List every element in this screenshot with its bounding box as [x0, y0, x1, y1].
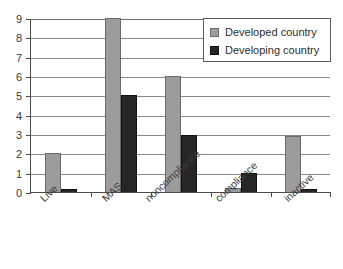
bar-chart: 9 8 7 6 5 4 3 2 1 0: [0, 0, 343, 269]
legend: Developed country Developing country: [203, 18, 331, 62]
y-tick-label: 2: [4, 149, 22, 160]
y-axis-labels: 9 8 7 6 5 4 3 2 1 0: [0, 19, 26, 193]
x-axis-labels: Live MAS noncompliance compliance inacti…: [30, 196, 330, 266]
y-tick-label: 1: [4, 168, 22, 179]
y-tick-label: 4: [4, 110, 22, 121]
y-tick-label: 9: [4, 14, 22, 25]
bar-developed-mas: [105, 18, 121, 192]
legend-entry-developing: Developing country: [210, 42, 324, 59]
y-tick-label: 6: [4, 72, 22, 83]
y-tick-mark: [26, 193, 31, 194]
y-tick-label: 3: [4, 130, 22, 141]
y-tick-label: 5: [4, 91, 22, 102]
legend-label-developing: Developing country: [225, 45, 319, 56]
bar-developing-live: [61, 189, 77, 192]
bar-developing-mas: [121, 95, 137, 192]
y-tick-label: 8: [4, 33, 22, 44]
legend-entry-developed: Developed country: [210, 24, 324, 41]
y-tick-label: 0: [4, 188, 22, 199]
x-tick-mark: [330, 192, 331, 197]
legend-label-developed: Developed country: [225, 27, 317, 38]
legend-swatch-icon-developed: [210, 28, 219, 37]
y-tick-label: 7: [4, 52, 22, 63]
legend-swatch-icon-developing: [210, 46, 219, 55]
bar-group-mas: [91, 19, 151, 192]
bar-group-live: [31, 19, 91, 192]
